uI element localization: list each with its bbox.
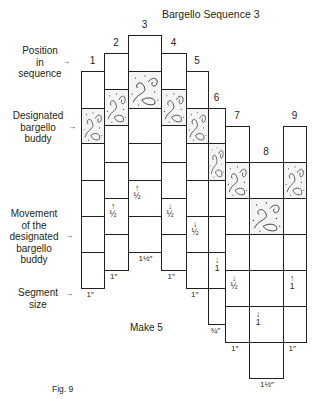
strip-column-1 [81,71,105,289]
arrow-icon: → [68,122,76,131]
strip-segment [162,125,186,162]
strip-segment [162,234,186,270]
segment-size-label: 1½″ [139,254,153,263]
movement-annotation: ↓½ [227,274,241,290]
strip-segment [82,71,104,108]
floral-pattern-icon [162,90,186,125]
strip-segment [284,126,306,162]
movement-value: ½ [227,282,241,290]
segment-size-label: 1″ [87,290,94,299]
label-designated-buddy: Designated bargello buddy [8,110,68,145]
strip-segment [82,143,104,180]
buddy-segment [129,71,161,108]
strip-segment [162,162,186,198]
strip-segment [82,216,104,252]
column-number: 1 [83,55,103,66]
movement-annotation: ↓½ [188,220,202,236]
strip-segment [129,35,161,71]
strip-segment [250,270,283,306]
column-number: 7 [227,110,247,121]
floral-pattern-icon [284,163,306,198]
strip-segment [129,143,161,180]
strip-segment [82,180,104,216]
floral-pattern-icon [82,109,104,143]
figure-label: Fig. 9 [52,384,73,394]
column-number: 5 [187,55,207,66]
movement-value: ½ [163,210,177,218]
segment-size-label: ¾″ [211,326,221,335]
strip-column-8 [249,162,284,379]
strip-segment [209,180,225,216]
arrow-icon: → [62,57,70,66]
column-number: 4 [164,37,184,48]
strip-segment [187,180,208,216]
movement-annotation: ↓1 [251,310,265,326]
buddy-segment [209,143,225,180]
strip-segment [250,342,283,378]
column-number: 8 [256,146,276,157]
strip-segment [162,53,186,89]
movement-annotation: ↑1 [285,274,299,290]
strip-segment [226,306,249,342]
strip-column-6 [208,108,226,325]
movement-annotation: ↑½ [130,184,144,200]
buddy-segment [250,198,283,234]
movement-value: ½ [106,210,120,218]
label-segment-size: Segment size [8,287,68,310]
segment-size-label: 1″ [289,344,296,353]
floral-pattern-icon [226,163,249,198]
floral-pattern-icon [187,109,208,143]
strip-segment [284,306,306,342]
strip-segment [226,126,249,162]
column-number: 2 [106,37,126,48]
floral-pattern-icon [209,144,225,180]
segment-size-label: 1″ [110,272,117,281]
strip-segment [129,108,161,143]
segment-size-label: 1½″ [260,380,274,389]
movement-value: 1 [285,282,299,290]
buddy-segment [162,89,186,125]
movement-value: ½ [130,192,144,200]
strip-segment [105,234,128,270]
floral-pattern-icon [129,72,161,108]
arrow-icon: → [65,289,73,298]
arrow-icon: → [65,231,73,240]
buddy-segment [187,108,208,143]
segment-size-label: 1″ [168,272,175,281]
movement-annotation: ↓½ [163,202,177,218]
floral-pattern-icon [250,199,283,234]
strip-segment [187,143,208,180]
strip-segment [226,198,249,234]
strip-segment [82,252,104,288]
strip-segment [209,216,225,252]
strip-segment [284,234,306,270]
column-number: 6 [207,92,227,103]
strip-segment [187,71,208,108]
floral-pattern-icon [105,90,128,125]
movement-value: ½ [188,228,202,236]
column-number: 9 [285,110,305,121]
strip-segment [209,108,225,143]
buddy-segment [82,108,104,143]
strip-column-4 [161,53,187,271]
strip-segment [105,53,128,89]
movement-annotation: ↑½ [106,202,120,218]
strip-segment [250,234,283,270]
segment-size-label: 1″ [231,344,238,353]
buddy-segment [105,89,128,125]
strip-segment [105,125,128,162]
label-movement: Movement of the designated bargello budd… [4,208,64,266]
strip-column-7 [225,126,250,343]
buddy-segment [226,162,249,198]
strip-segment [209,288,225,324]
strip-segment [284,198,306,234]
diagram-title: Bargello Sequence 3 [162,8,260,20]
movement-value: 1 [251,318,265,326]
strip-segment [226,234,249,270]
segment-size-label: 1″ [191,290,198,299]
strip-segment [250,162,283,198]
strip-column-5 [186,71,209,289]
strip-segment [105,162,128,198]
strip-column-9 [283,126,307,343]
buddy-segment [284,162,306,198]
